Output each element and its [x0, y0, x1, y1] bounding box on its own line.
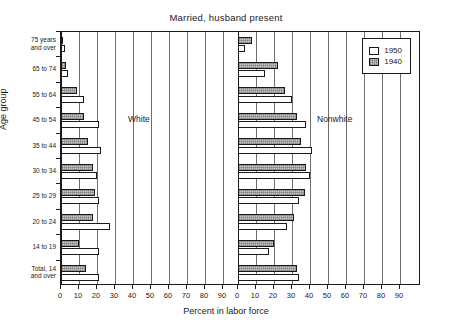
bar-nonwhite-1940 — [238, 240, 274, 247]
bar-nonwhite-1940 — [238, 37, 252, 44]
x-tick — [345, 285, 346, 289]
bar-nonwhite-1950 — [238, 45, 245, 52]
legend-label-1950: 1950 — [384, 46, 402, 55]
bar-white-1950 — [61, 197, 99, 204]
bar-nonwhite-1950 — [238, 147, 312, 154]
y-tick-label: Total, 14 and over — [0, 265, 56, 280]
x-tick-label: 90 — [388, 291, 410, 300]
x-tick — [381, 285, 382, 289]
x-tick — [327, 285, 328, 289]
bar-nonwhite-1940 — [238, 138, 301, 145]
bar-white-1940 — [61, 113, 84, 120]
x-tick — [186, 285, 187, 289]
y-tick — [56, 260, 60, 261]
y-tick-label: 14 to 19 — [0, 243, 56, 251]
y-tick — [56, 31, 60, 32]
y-tick — [56, 158, 60, 159]
legend-item-1950: 1950 — [369, 46, 402, 55]
bar-white-1950 — [61, 223, 110, 230]
y-tick-label: 45 to 54 — [0, 116, 56, 124]
bar-row — [61, 235, 419, 260]
bar-nonwhite-1950 — [238, 274, 299, 281]
x-tick — [168, 285, 169, 289]
chart-figure: Married, husband present Age group White… — [0, 0, 452, 328]
bar-nonwhite-1940 — [238, 265, 297, 272]
y-tick-label: 30 to 34 — [0, 167, 56, 175]
x-tick — [273, 285, 274, 289]
bar-white-1950 — [61, 70, 68, 77]
bar-row — [61, 83, 419, 108]
bar-white-1940 — [61, 37, 63, 44]
x-tick — [255, 285, 256, 289]
legend-swatch-1950-icon — [369, 47, 379, 55]
chart-title: Married, husband present — [0, 12, 452, 23]
bar-white-1940 — [61, 265, 86, 272]
y-tick-label: 75 years and over — [0, 36, 56, 51]
bar-white-1950 — [61, 172, 97, 179]
y-tick-label: 25 to 29 — [0, 192, 56, 200]
bar-nonwhite-1950 — [238, 121, 306, 128]
legend: 1950 1940 — [362, 38, 411, 74]
bar-row — [61, 108, 419, 133]
bar-white-1950 — [61, 121, 99, 128]
y-tick — [56, 234, 60, 235]
bar-row — [61, 210, 419, 235]
panel-label-white: White — [128, 114, 150, 124]
legend-label-1940: 1940 — [384, 57, 402, 66]
bar-white-1940 — [61, 138, 88, 145]
bar-nonwhite-1940 — [238, 189, 305, 196]
bar-nonwhite-1950 — [238, 248, 269, 255]
y-tick — [56, 183, 60, 184]
x-tick — [309, 285, 310, 289]
bar-row — [61, 134, 419, 159]
x-tick — [222, 285, 223, 289]
y-tick-label: 35 to 44 — [0, 142, 56, 150]
bar-row — [61, 184, 419, 209]
y-tick — [56, 209, 60, 210]
x-tick — [60, 285, 61, 289]
panel-label-nonwhite: Nonwhite — [317, 114, 352, 124]
y-tick — [56, 107, 60, 108]
x-tick — [399, 285, 400, 289]
bar-white-1940 — [61, 164, 93, 171]
y-tick-label: 20 to 24 — [0, 218, 56, 226]
y-tick — [56, 82, 60, 83]
bar-nonwhite-1940 — [238, 87, 285, 94]
x-tick — [114, 285, 115, 289]
bar-white-1950 — [61, 147, 101, 154]
bar-nonwhite-1950 — [238, 223, 287, 230]
plot-area: White Nonwhite 1950 1940 — [60, 31, 420, 285]
legend-item-1940: 1940 — [369, 57, 402, 66]
x-tick — [132, 285, 133, 289]
x-tick — [204, 285, 205, 289]
bar-white-1950 — [61, 274, 99, 281]
y-tick-label: 65 to 74 — [0, 65, 56, 73]
x-tick — [78, 285, 79, 289]
legend-swatch-1940-icon — [369, 58, 379, 66]
bar-nonwhite-1940 — [238, 214, 294, 221]
bar-white-1950 — [61, 248, 99, 255]
bar-nonwhite-1950 — [238, 96, 292, 103]
bar-white-1940 — [61, 87, 77, 94]
x-axis-title: Percent in labor force — [0, 306, 452, 316]
bar-white-1950 — [61, 96, 84, 103]
bar-white-1950 — [61, 45, 65, 52]
y-tick — [56, 133, 60, 134]
x-tick — [150, 285, 151, 289]
y-tick-label: 55 to 64 — [0, 91, 56, 99]
bar-row — [61, 159, 419, 184]
bar-nonwhite-1950 — [238, 172, 310, 179]
bar-white-1940 — [61, 240, 79, 247]
bar-white-1940 — [61, 62, 66, 69]
bar-white-1940 — [61, 214, 93, 221]
bar-nonwhite-1940 — [238, 113, 297, 120]
x-tick — [291, 285, 292, 289]
bar-nonwhite-1950 — [238, 70, 265, 77]
bar-nonwhite-1940 — [238, 164, 306, 171]
bar-white-1940 — [61, 189, 95, 196]
x-tick — [237, 285, 238, 289]
x-tick — [363, 285, 364, 289]
y-tick — [56, 56, 60, 57]
bar-nonwhite-1940 — [238, 62, 278, 69]
bar-nonwhite-1950 — [238, 197, 299, 204]
